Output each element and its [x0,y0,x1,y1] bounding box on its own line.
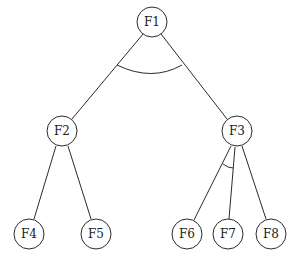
node-f1: F1 [137,7,167,37]
edge-f3-f7 [229,147,235,219]
node-label: F2 [54,124,70,138]
node-label: F7 [220,227,236,241]
edge-f3-f6 [194,146,231,220]
node-f4: F4 [14,219,44,249]
and-arc-f3 [223,164,233,168]
and-or-tree-diagram: F1 F2 F3 F4 F5 F6 F7 F8 [0,0,301,262]
node-f3: F3 [222,116,252,146]
edge-f1-f2 [72,34,143,119]
node-label: F4 [21,227,37,241]
edge-f2-f4 [34,146,56,219]
node-f2: F2 [47,116,77,146]
edge-f2-f5 [68,146,91,219]
and-arc-f1 [117,65,182,74]
edge-f1-f3 [161,34,227,119]
node-label: F3 [229,124,245,138]
node-label: F1 [144,15,160,29]
edge-f3-f8 [242,146,266,219]
node-f7: F7 [213,219,243,249]
node-f8: F8 [256,219,286,249]
node-label: F5 [88,227,104,241]
node-f5: F5 [81,219,111,249]
node-label: F8 [263,227,279,241]
node-label: F6 [179,227,195,241]
node-f6: F6 [172,219,202,249]
